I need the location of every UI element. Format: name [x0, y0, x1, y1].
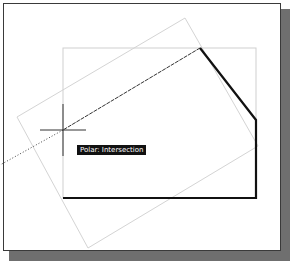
polar-tracking-extension — [0, 130, 63, 165]
snap-tooltip: Polar: Intersection — [77, 145, 146, 155]
tracking-line — [63, 48, 200, 130]
reference-rectangle[interactable] — [63, 48, 256, 198]
rotated-rectangle[interactable] — [17, 18, 258, 248]
polyline-object[interactable] — [63, 48, 256, 198]
drawing-area[interactable] — [0, 0, 290, 261]
